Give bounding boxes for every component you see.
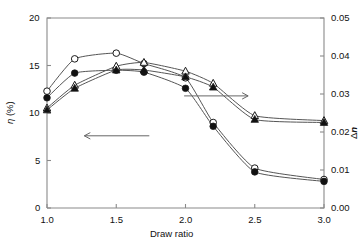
y-tick-label-right: 0.04 — [331, 50, 350, 61]
chart-figure: η (%) Δn Draw ratio 1.01.52.02.53.005101… — [0, 0, 360, 249]
left-arrow-annotation — [84, 133, 149, 139]
y-tick-label-left: 0 — [35, 202, 40, 213]
chart-series — [43, 50, 327, 185]
y-tick-label-right: 0.02 — [331, 126, 350, 137]
y-tick-label-left: 15 — [29, 60, 40, 71]
y-tick-label-right: 0.01 — [331, 164, 350, 175]
y-axis-left-label: η (%) — [4, 101, 15, 124]
y-tick-label-right: 0.05 — [331, 12, 350, 23]
y-axis-right-label: Δn — [348, 127, 359, 139]
chart-plot-area — [0, 0, 360, 249]
y-tick-label-right: 0.03 — [331, 88, 350, 99]
y-tick-label-left: 5 — [35, 155, 40, 166]
y-tick-label-left: 10 — [29, 107, 40, 118]
chart-annotations — [84, 93, 248, 139]
x-axis-label: Draw ratio — [150, 228, 193, 239]
chart-axes — [47, 18, 324, 208]
x-tick-label: 1.5 — [110, 214, 123, 225]
x-tick-label: 2.5 — [248, 214, 261, 225]
x-tick-label: 2.0 — [179, 214, 192, 225]
series-eta-filled-circle — [44, 67, 328, 185]
y-tick-label-left: 20 — [29, 12, 40, 23]
x-tick-label: 3.0 — [318, 214, 331, 225]
x-tick-label: 1.0 — [41, 214, 54, 225]
y-tick-label-right: 0.00 — [331, 202, 350, 213]
